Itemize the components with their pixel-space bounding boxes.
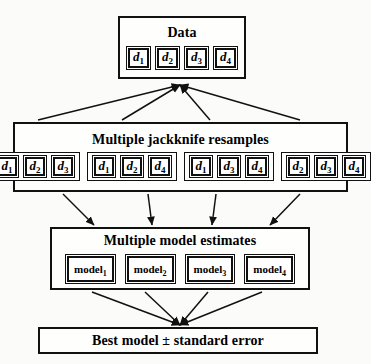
- model-chip: model4: [244, 254, 295, 284]
- model-chip: model2: [125, 254, 176, 284]
- data-chip-label: d3: [191, 50, 202, 66]
- data-chip-label: d1: [133, 50, 144, 66]
- model-chip: model1: [65, 254, 116, 284]
- resample-chip: d1: [189, 155, 213, 178]
- resample-chip: d4: [342, 155, 366, 178]
- resample-group: d1 d2 d4: [87, 152, 177, 181]
- arrow-resample-to-data: [38, 85, 180, 120]
- model-chip: model3: [185, 254, 236, 284]
- arrow-resample-to-model: [148, 194, 152, 225]
- arrow-model-to-final: [145, 292, 180, 325]
- resample-group: d1 d3 d4: [184, 152, 274, 181]
- model-chip-label: model3: [194, 263, 227, 275]
- arrow-resample-to-model: [63, 194, 94, 225]
- resample-chip: d3: [51, 155, 75, 178]
- resample-chip: d1: [92, 155, 116, 178]
- model-estimates-box: Multiple model estimates model1 model2 m…: [50, 227, 310, 290]
- resample-box-title: Multiple jackknife resamples: [92, 133, 269, 147]
- resample-chip: d2: [23, 155, 47, 178]
- model-chip-label: model4: [253, 263, 286, 275]
- arrow-resample-to-model: [270, 194, 300, 225]
- data-chip: d4: [213, 46, 238, 70]
- arrow-resample-to-model: [212, 194, 216, 225]
- data-chip-label: d2: [162, 50, 173, 66]
- arrow-model-to-final: [92, 292, 180, 325]
- model-estimates-title: Multiple model estimates: [104, 234, 256, 248]
- final-result-box: Best model ± standard error: [38, 327, 318, 354]
- final-result-title: Best model ± standard error: [92, 334, 264, 348]
- resample-chip: d2: [120, 155, 144, 178]
- data-chip: d2: [155, 46, 180, 70]
- resample-chip: d3: [217, 155, 241, 178]
- data-box-title: Data: [167, 26, 196, 40]
- data-chip-label: d4: [220, 50, 231, 66]
- resample-chip: d2: [286, 155, 310, 178]
- arrow-model-to-final: [180, 292, 208, 325]
- data-box: Data d1 d2 d3 d4: [118, 16, 246, 79]
- data-chip: d3: [184, 46, 209, 70]
- resample-chip: d3: [314, 155, 338, 178]
- arrow-resample-to-data: [180, 85, 300, 120]
- model-chip-label: model2: [134, 263, 167, 275]
- arrow-model-to-final: [180, 292, 262, 325]
- resample-group: d2 d3 d4: [281, 152, 371, 181]
- resample-box: Multiple jackknife resamples d1 d2 d3 d1…: [13, 122, 348, 192]
- resample-group: d1 d2 d3: [0, 152, 80, 181]
- resample-chip: d4: [245, 155, 269, 178]
- data-chip: d1: [126, 46, 151, 70]
- resample-chip: d1: [0, 155, 19, 178]
- arrow-resample-to-data: [122, 85, 180, 120]
- data-chip-row: d1 d2 d3 d4: [124, 46, 240, 70]
- resample-group-row: d1 d2 d3 d1 d2 d4 d1 d3 d4 d2 d3 d4: [0, 152, 371, 181]
- resample-chip: d4: [148, 155, 172, 178]
- model-chip-label: model1: [74, 263, 107, 275]
- model-chip-row: model1 model2 model3 model4: [65, 254, 295, 284]
- arrow-resample-to-data: [180, 85, 210, 120]
